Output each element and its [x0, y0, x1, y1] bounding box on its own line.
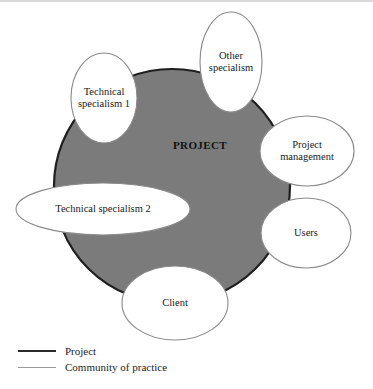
client-ellipse[interactable] — [122, 266, 228, 340]
legend-label-project: Project — [65, 345, 96, 357]
users-ellipse[interactable] — [261, 198, 351, 268]
technical-specialism-2-ellipse[interactable] — [16, 183, 190, 235]
legend-line-project-icon — [18, 350, 56, 352]
legend: Project Community of practice — [18, 343, 318, 375]
project-core-label: PROJECT — [150, 139, 250, 151]
technical-specialism-1-ellipse[interactable] — [71, 53, 137, 143]
figure-canvas: PROJECT Technical specialism 1 Other spe… — [0, 0, 373, 389]
other-specialism-ellipse[interactable] — [200, 12, 262, 112]
venn-diagram-graphic — [0, 0, 373, 389]
project-management-ellipse[interactable] — [260, 116, 354, 186]
legend-item-project: Project — [18, 343, 318, 359]
legend-label-community-of-practice: Community of practice — [65, 361, 167, 373]
legend-line-community-of-practice-icon — [18, 367, 56, 368]
legend-item-community-of-practice: Community of practice — [18, 359, 318, 375]
